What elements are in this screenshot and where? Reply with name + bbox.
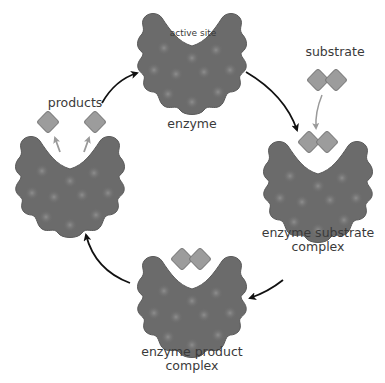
enzyme-cycle-diagram: active site enzyme substrate products en… bbox=[0, 0, 385, 383]
active-site-label: active site bbox=[168, 27, 218, 40]
ep-complex-label-line1: enzyme product bbox=[135, 345, 249, 358]
ep-complex-label-line2: complex bbox=[135, 359, 249, 372]
products-label: products bbox=[42, 96, 108, 109]
enzyme-products-released bbox=[16, 111, 125, 238]
substrate-molecule bbox=[307, 69, 348, 128]
product-molecule bbox=[37, 111, 60, 134]
enzyme-product-complex bbox=[138, 248, 247, 358]
arrow-es-to-ep-complex bbox=[250, 280, 283, 298]
arrow-enzyme-to-es-complex bbox=[246, 72, 297, 130]
substrate-label: substrate bbox=[297, 45, 373, 58]
es-complex-label-line2: complex bbox=[255, 240, 381, 253]
arrow-ep-to-products bbox=[86, 235, 130, 283]
product-molecule bbox=[84, 111, 107, 134]
enzyme-label: enzyme bbox=[160, 117, 224, 130]
es-complex-label-line1: enzyme substrate bbox=[255, 226, 381, 239]
